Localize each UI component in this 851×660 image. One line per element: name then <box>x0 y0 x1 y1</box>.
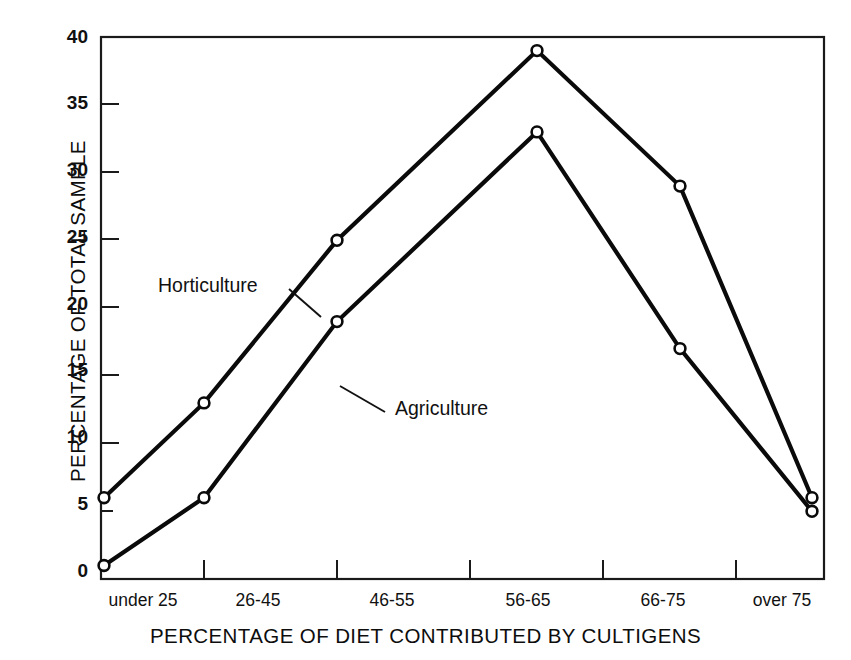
y-tick-label: 0 <box>40 560 88 582</box>
data-point <box>532 45 543 56</box>
x-tick-label: under 25 <box>108 590 177 611</box>
data-point <box>99 492 110 503</box>
data-point <box>675 343 686 354</box>
x-axis-title: PERCENTAGE OF DIET CONTRIBUTED BY CULTIG… <box>0 624 851 648</box>
data-point <box>807 492 818 503</box>
x-tick-label: over 75 <box>753 590 811 611</box>
leader-line-agriculture <box>340 386 385 412</box>
y-tick-label: 30 <box>40 159 88 181</box>
y-tick-label: 15 <box>40 359 88 381</box>
data-point <box>675 181 686 192</box>
data-point <box>807 506 818 517</box>
series-agriculture <box>99 126 818 570</box>
x-tick-label: 66-75 <box>641 590 686 611</box>
data-point <box>532 126 543 137</box>
data-point <box>332 316 343 327</box>
y-tick-label: 35 <box>40 92 88 114</box>
x-tick-marks <box>204 560 736 579</box>
y-tick-label: 40 <box>40 26 88 48</box>
series-label-agriculture: Agriculture <box>395 397 488 420</box>
y-tick-label: 25 <box>40 226 88 248</box>
x-tick-label: 26-45 <box>236 590 281 611</box>
data-point <box>199 492 210 503</box>
y-tick-label: 5 <box>40 493 88 515</box>
y-tick-label: 20 <box>40 293 88 315</box>
y-tick-marks <box>101 104 119 511</box>
data-point <box>332 235 343 246</box>
y-tick-label: 10 <box>40 426 88 448</box>
data-point <box>99 560 110 571</box>
chart-figure: PERCENTAGE OF TOTAL SAMPLE PERCENTAGE OF… <box>0 0 851 660</box>
x-tick-label: 56-65 <box>506 590 551 611</box>
series-label-horticulture: Horticulture <box>158 274 258 297</box>
leader-line-horticulture <box>289 289 321 317</box>
data-point <box>199 398 210 409</box>
x-tick-label: 46-55 <box>370 590 415 611</box>
series-line-agriculture <box>104 132 812 566</box>
plot-area <box>0 0 851 660</box>
